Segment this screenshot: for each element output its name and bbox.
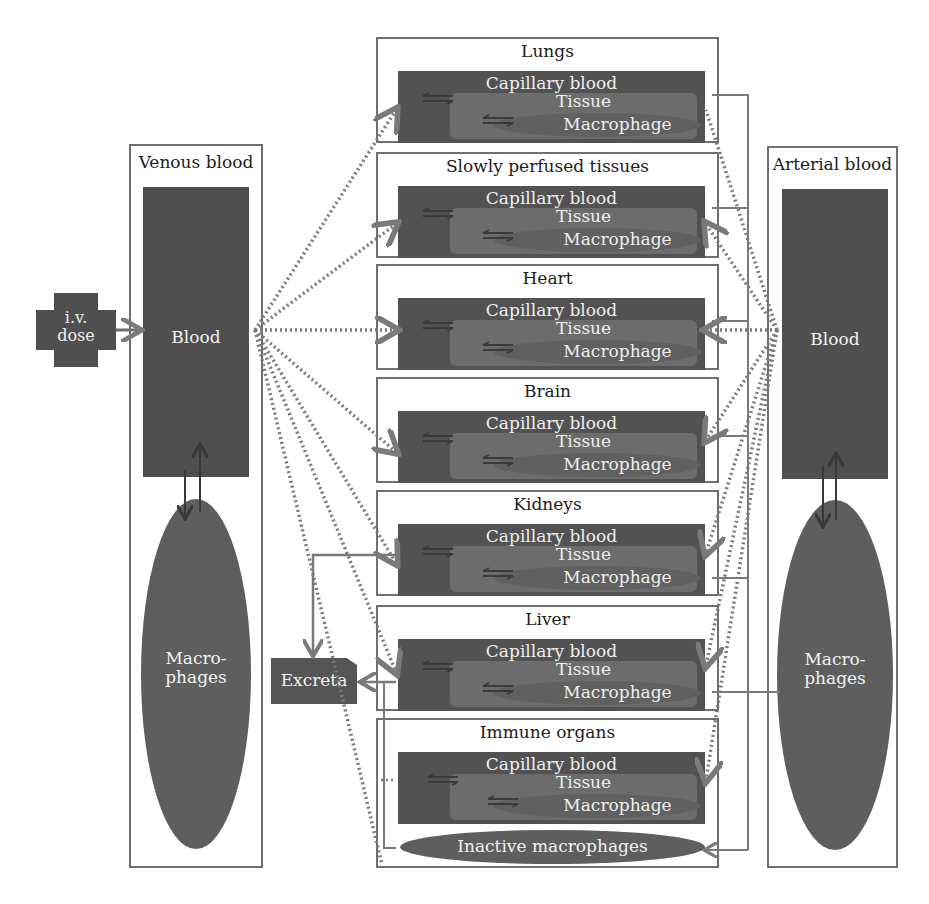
capillary-blood: Capillary blood Tissue Macrophage [398, 298, 705, 370]
tissue: Tissue Macrophage [450, 774, 697, 820]
capillary-blood: Capillary blood Tissue Macrophage [398, 639, 705, 711]
arterial-blood-title: Arterial blood [769, 154, 896, 174]
excreta-label: Excreta [271, 670, 357, 690]
macrophage: Macrophage [494, 681, 701, 705]
macrophage: Macrophage [494, 228, 701, 252]
organ-kidneys: Kidneys Capillary blood Tissue Macrophag… [376, 490, 719, 596]
tissue: Tissue Macrophage [450, 208, 697, 254]
organ-title: Liver [378, 609, 717, 629]
venous-blood-title: Venous blood [131, 152, 261, 172]
inactive-macrophages: Inactive macrophages [400, 830, 705, 864]
organ-lungs: Lungs Capillary blood Tissue Macrophage [376, 37, 719, 143]
organ-slowly-perfused: Slowly perfused tissues Capillary blood … [376, 152, 719, 258]
macrophage: Macrophage [494, 113, 701, 137]
iv-dose-node: i.v. dose [36, 293, 116, 367]
organ-title: Kidneys [378, 494, 717, 514]
capillary-blood: Capillary blood Tissue Macrophage [398, 186, 705, 258]
organ-title: Brain [378, 381, 717, 401]
arterial-blood-pool: Blood [782, 189, 888, 479]
arterial-macrophages-label: Macro- phages [777, 650, 893, 688]
capillary-blood: Capillary blood Tissue Macrophage [398, 752, 705, 824]
venous-blood-compartment: Venous blood Blood Macro- phages [129, 144, 263, 868]
tissue: Tissue Macrophage [450, 661, 697, 707]
arterial-blood-label: Blood [782, 329, 888, 349]
venous-blood-label: Blood [143, 327, 249, 347]
macrophage: Macrophage [494, 453, 701, 477]
tissue: Tissue Macrophage [450, 433, 697, 479]
capillary-blood: Capillary blood Tissue Macrophage [398, 71, 705, 143]
organ-title: Lungs [378, 41, 717, 61]
macrophage: Macrophage [494, 340, 701, 364]
venous-macrophages-label: Macro- phages [141, 649, 251, 687]
organ-immune: Immune organs Capillary blood Tissue Mac… [376, 718, 719, 868]
venous-blood-pool: Blood [143, 187, 249, 477]
venous-to-organ-flows [255, 110, 396, 865]
organ-brain: Brain Capillary blood Tissue Macrophage [376, 377, 719, 483]
arterial-blood-compartment: Arterial blood Blood Macro- phages [767, 146, 898, 868]
venous-macrophages: Macro- phages [141, 499, 251, 849]
macrophage: Macrophage [494, 794, 701, 818]
capillary-blood: Capillary blood Tissue Macrophage [398, 411, 705, 483]
tissue: Tissue Macrophage [450, 93, 697, 139]
organ-title: Heart [378, 268, 717, 288]
macrophage: Macrophage [494, 566, 701, 590]
capillary-blood: Capillary blood Tissue Macrophage [398, 524, 705, 596]
organ-liver: Liver Capillary blood Tissue Macrophage [376, 605, 719, 711]
organ-title: Slowly perfused tissues [378, 156, 717, 176]
tissue: Tissue Macrophage [450, 320, 697, 366]
excreta-node: Excreta [271, 658, 357, 704]
organ-title: Immune organs [378, 722, 717, 742]
iv-dose-label: i.v. dose [36, 309, 116, 345]
tissue: Tissue Macrophage [450, 546, 697, 592]
arterial-macrophages: Macro- phages [777, 500, 893, 850]
organ-heart: Heart Capillary blood Tissue Macrophage [376, 264, 719, 370]
